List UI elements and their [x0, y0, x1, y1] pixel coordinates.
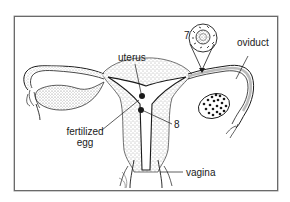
label-uterus: uterus [118, 52, 146, 63]
embryo-dot-8 [138, 107, 144, 113]
label-marker-7: 7 [184, 30, 190, 41]
label-marker-8: 8 [174, 119, 180, 130]
label-vagina: vagina [186, 167, 215, 178]
label-oviduct: oviduct [237, 37, 269, 48]
fertilized-egg-dot [139, 93, 145, 99]
label-fertilized-egg: fertilized egg [60, 126, 110, 148]
left-ovary [27, 82, 104, 120]
right-ovary [195, 89, 233, 122]
reproductive-system-illustration [0, 0, 290, 202]
magnified-egg-callout [189, 24, 217, 73]
